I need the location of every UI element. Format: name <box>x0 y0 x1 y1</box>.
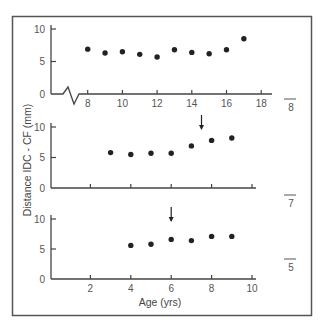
y-tick-label: 5 <box>39 56 45 67</box>
y-tick-label: 0 <box>39 89 45 100</box>
x-tick-label: 10 <box>246 283 258 294</box>
x-tick-label: 6 <box>168 283 174 294</box>
data-point <box>229 135 234 140</box>
panel-label: 7 <box>288 198 294 209</box>
data-point <box>102 50 107 55</box>
panel-label: 8 <box>288 102 294 113</box>
arrow-head-icon <box>169 217 174 222</box>
data-point <box>189 238 194 243</box>
data-point <box>172 47 177 52</box>
y-axis-title: Distance IDC - CF (mm) <box>21 104 33 217</box>
data-point <box>154 54 159 59</box>
data-point <box>209 138 214 143</box>
data-point <box>128 243 133 248</box>
data-point <box>169 237 174 242</box>
x-tick-label: 16 <box>221 98 233 109</box>
x-axis-title: Age (yrs) <box>139 296 182 308</box>
data-point <box>206 51 211 56</box>
data-point <box>148 242 153 247</box>
y-tick-label: 5 <box>39 244 45 255</box>
data-point <box>128 152 133 157</box>
chart-figure: Distance IDC - CF (mm) 05108101214161880… <box>0 0 323 326</box>
data-point <box>120 49 125 54</box>
data-point <box>209 234 214 239</box>
x-tick-label: 8 <box>85 98 91 109</box>
data-point <box>189 50 194 55</box>
data-point <box>224 47 229 52</box>
data-point <box>137 52 142 57</box>
data-point <box>85 46 90 51</box>
x-tick-label: 10 <box>117 98 129 109</box>
x-tick-label: 14 <box>186 98 198 109</box>
y-tick-label: 5 <box>39 152 45 163</box>
figure-frame <box>13 17 312 316</box>
y-tick-label: 10 <box>34 122 46 133</box>
data-point <box>241 36 246 41</box>
y-tick-label: 0 <box>39 183 45 194</box>
panel-1: 0510810121416188 <box>34 24 296 114</box>
data-point <box>108 150 113 155</box>
x-tick-label: 12 <box>152 98 164 109</box>
arrow-head-icon <box>199 125 204 130</box>
y-tick-label: 0 <box>39 274 45 285</box>
panel-3: 05102468105Age (yrs) <box>34 207 296 308</box>
data-point <box>229 234 234 239</box>
y-tick-label: 10 <box>34 24 46 35</box>
x-tick-label: 8 <box>209 283 215 294</box>
data-point <box>189 143 194 148</box>
data-point <box>148 151 153 156</box>
y-tick-label: 10 <box>34 214 46 225</box>
panel-label: 5 <box>288 262 294 273</box>
panel-2: 05107 <box>34 115 296 209</box>
x-tick-label: 4 <box>128 283 134 294</box>
x-tick-label: 2 <box>88 283 94 294</box>
data-point <box>169 151 174 156</box>
x-tick-label: 18 <box>256 98 268 109</box>
